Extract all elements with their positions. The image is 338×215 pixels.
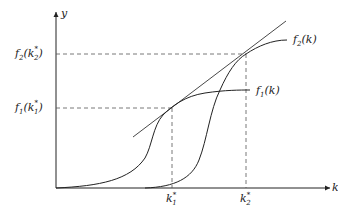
y-tick-f2-kstar2: f2(k*2) [15,47,43,62]
y-axis-label: y [61,8,67,19]
x-axis-label: k [332,182,338,193]
y-tick-f1-kstar1: f1(k*1) [15,101,43,116]
f2-curve-label: f2(k) [293,34,317,48]
x-tick-kstar2: k*2 [240,192,251,207]
diagram-svg [0,0,338,215]
x-tick-kstar1: k*1 [166,192,177,207]
curve-f2 [145,40,287,188]
curve-f1 [56,90,250,188]
tangent-line [133,21,286,137]
diagram-canvas: y k f2(k) f1(k) f2(k*2) f1(k*1) k*1 k*2 [0,0,338,215]
f1-curve-label: f1(k) [256,85,280,99]
